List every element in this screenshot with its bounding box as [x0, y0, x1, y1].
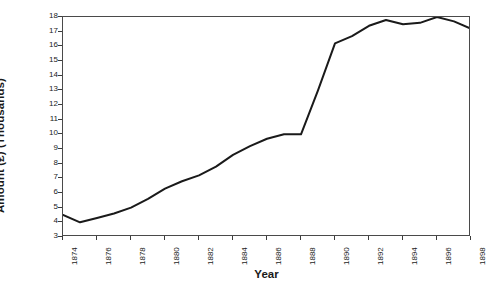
- y-tick-label: 16: [36, 41, 58, 49]
- y-tick-label: 10: [36, 129, 58, 137]
- y-tick-label: 11: [36, 115, 58, 123]
- x-tick-label: 1888: [308, 247, 317, 265]
- x-tick-label: 1882: [206, 247, 215, 265]
- y-axis-title: Amount (£) (Thousands): [0, 0, 36, 291]
- y-tick-label: 12: [36, 100, 58, 108]
- line-chart: Amount (£) (Thousands) 18171615141312111…: [0, 0, 497, 291]
- y-tick-label: 5: [36, 203, 58, 211]
- y-tick-label: 4: [36, 217, 58, 225]
- x-tick-label: 1896: [444, 247, 453, 265]
- y-tick-label: 13: [36, 85, 58, 93]
- x-tick-label: 1890: [342, 247, 351, 265]
- x-axis-title: Year: [62, 268, 471, 280]
- y-axis-tick-labels: 1817161514131211109876543: [36, 16, 58, 236]
- x-tick-label: 1886: [274, 247, 283, 265]
- x-tick-label: 1874: [70, 247, 79, 265]
- data-polyline: [63, 17, 470, 222]
- y-tick-label: 14: [36, 71, 58, 79]
- y-tick-label: 9: [36, 144, 58, 152]
- y-tick-label: 8: [36, 159, 58, 167]
- x-tick-label: 1884: [240, 247, 249, 265]
- y-tick-label: 6: [36, 188, 58, 196]
- y-tick-label: 17: [36, 27, 58, 35]
- data-series-line: [63, 17, 470, 236]
- x-axis-tick-labels: 1874187618781880188218841886188818901892…: [62, 240, 471, 266]
- x-tick-label: 1880: [172, 247, 181, 265]
- y-axis-title-label: Amount (£) (Thousands): [0, 78, 6, 213]
- y-tick-label: 3: [36, 232, 58, 240]
- x-tick-label: 1876: [104, 247, 113, 265]
- y-tick-label: 18: [36, 12, 58, 20]
- x-tick-label: 1892: [376, 247, 385, 265]
- x-tick-label: 1894: [410, 247, 419, 265]
- x-tick-label: 1878: [138, 247, 147, 265]
- x-tick-label: 1898: [478, 247, 487, 265]
- y-tick-label: 7: [36, 173, 58, 181]
- plot-area: [62, 16, 470, 236]
- y-tick-label: 15: [36, 56, 58, 64]
